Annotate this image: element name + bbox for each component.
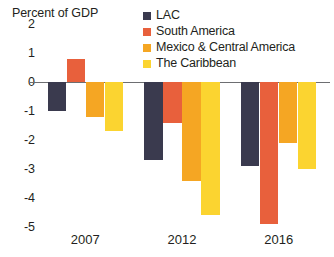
x-axis-tick-labels: 200720122016 <box>40 232 330 254</box>
bar <box>279 82 298 143</box>
y-axis-tick-label: -2 <box>24 133 35 147</box>
bar <box>105 82 124 131</box>
bar <box>86 82 105 117</box>
x-axis-tick-label: 2016 <box>264 232 293 247</box>
bar <box>48 82 67 111</box>
x-axis-tick-label: 2007 <box>71 232 100 247</box>
bar <box>298 82 317 169</box>
bar <box>144 82 163 160</box>
y-axis-tick-label: 2 <box>28 17 35 31</box>
legend-label: LAC <box>156 9 180 22</box>
y-axis-tick-label: -3 <box>24 162 35 176</box>
x-axis-tick-label: 2012 <box>168 232 197 247</box>
y-axis-tick-label: -5 <box>24 220 35 234</box>
bar <box>182 82 201 181</box>
bar <box>241 82 260 166</box>
legend-item[interactable]: LAC <box>143 8 295 23</box>
bar <box>260 82 279 224</box>
y-axis-tick-label: 1 <box>28 46 35 60</box>
chart-container: Percent of GDP LACSouth AmericaMexico & … <box>0 0 334 257</box>
bar <box>67 59 86 82</box>
plot-area <box>40 24 330 227</box>
y-axis-tick-labels: 210-1-2-3-4-5 <box>0 24 40 227</box>
legend-swatch-icon <box>143 12 151 20</box>
bar <box>201 82 220 215</box>
y-axis-tick-label: -1 <box>24 104 35 118</box>
y-axis-tick-label: -4 <box>24 191 35 205</box>
bar <box>163 82 182 123</box>
chart-axis-title: Percent of GDP <box>12 6 98 20</box>
